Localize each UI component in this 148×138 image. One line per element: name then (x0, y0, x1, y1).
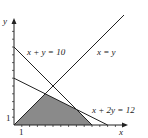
diagram-canvas: y x 1 1 x + y = 10 x = y x + 2y = 12 (0, 0, 148, 138)
y-axis-arrow-icon (12, 18, 17, 24)
label-x-eq-y: x = y (96, 47, 116, 57)
label-x-plus-2y-eq-12: x + 2y = 12 (91, 105, 135, 115)
x-axis-label: x (118, 127, 123, 137)
label-x-plus-y-eq-10: x + y = 10 (26, 47, 66, 57)
x-tick-label: 1 (19, 127, 24, 137)
shaded-region (14, 94, 92, 125)
y-tick-label: 1 (6, 113, 11, 123)
y-axis-label: y (2, 16, 7, 26)
